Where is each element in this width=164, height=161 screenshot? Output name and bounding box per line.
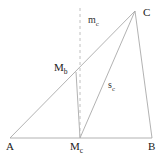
vertex-label-mb-subscript: b <box>64 67 68 76</box>
vertex-label-mc: Mc <box>70 141 83 155</box>
segment-mc-to-c <box>80 11 135 138</box>
vertex-label-a: A <box>6 141 14 152</box>
segment-label-mc-subscript: c <box>96 20 99 28</box>
segment-label-mc: mc <box>88 15 99 28</box>
figure-canvas <box>0 0 164 161</box>
segment-mc-to-mb <box>76 72 80 138</box>
segment-label-sc: sc <box>108 80 115 93</box>
vertex-label-b: B <box>148 141 155 152</box>
vertex-label-mc-subscript: c <box>80 146 83 155</box>
segment-bc <box>135 11 152 138</box>
geometry-figure: A B C Mc Mb mc sc <box>0 0 164 161</box>
segment-label-sc-subscript: c <box>112 85 115 93</box>
vertex-label-mb: Mb <box>54 62 68 76</box>
segment-ac <box>10 11 135 138</box>
vertex-label-c: C <box>143 7 150 18</box>
